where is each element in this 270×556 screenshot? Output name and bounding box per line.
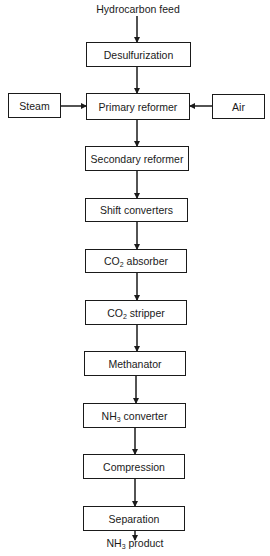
shift-converters-box: Shift converters: [85, 198, 188, 222]
separation-label: Separation: [109, 513, 160, 525]
co2-stripper-label: CO2 stripper: [107, 307, 165, 319]
methanator-box: Methanator: [84, 351, 186, 376]
desulfurization-label: Desulfurization: [104, 49, 173, 61]
nh3-converter-label: NH3 converter: [102, 410, 168, 422]
co2-absorber-box: CO2 absorber: [85, 249, 187, 273]
secondary-reformer-box: Secondary reformer: [85, 146, 189, 171]
compression-box: Compression: [83, 454, 185, 479]
nh3-converter-box: NH3 converter: [83, 403, 186, 428]
steam-box: Steam: [8, 93, 61, 118]
air-label: Air: [232, 101, 245, 113]
co2-stripper-box: CO2 stripper: [85, 300, 187, 325]
methanator-label: Methanator: [108, 358, 161, 370]
shift-converters-label: Shift converters: [100, 204, 173, 216]
primary-reformer-label: Primary reformer: [99, 101, 178, 113]
separation-box: Separation: [83, 506, 185, 531]
steam-label: Steam: [19, 100, 49, 112]
compression-label: Compression: [103, 461, 165, 473]
secondary-reformer-label: Secondary reformer: [91, 153, 184, 165]
nh3-product-label: NH3 product: [95, 537, 175, 549]
desulfurization-box: Desulfurization: [86, 42, 191, 67]
hydrocarbon-feed-label: Hydrocarbon feed: [88, 3, 188, 15]
primary-reformer-box: Primary reformer: [86, 93, 190, 120]
co2-absorber-label: CO2 absorber: [104, 255, 168, 267]
air-box: Air: [212, 94, 265, 119]
